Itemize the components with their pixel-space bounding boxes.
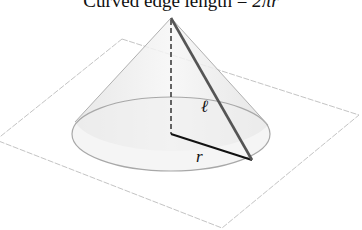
cone-figure: ℓ r	[0, 0, 362, 230]
cone-diagram: Curved edge length = 2πr ℓ r	[0, 0, 362, 230]
title-text: Curved edge length =	[83, 0, 252, 11]
radius-label: r	[196, 147, 203, 166]
title-formula: 2πr	[252, 0, 278, 11]
diagram-title: Curved edge length = 2πr	[0, 0, 362, 12]
slant-height-label: ℓ	[201, 97, 208, 116]
